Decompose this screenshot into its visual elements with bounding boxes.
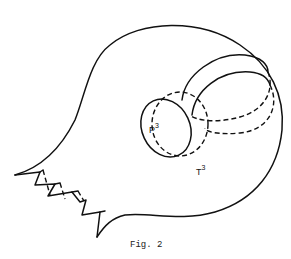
label-p3: P3 [149,123,159,135]
label-t-sup: 3 [202,164,206,171]
torus-outer-solid [182,55,268,100]
figure-diagram [0,0,291,259]
label-t3: T3 [196,165,205,177]
label-p-sup: 3 [155,122,159,129]
torus-outer-dashed [190,72,270,121]
torus-inner-dashed [205,85,274,134]
torn-edge [15,172,100,237]
figure-caption: Fig. 2 [130,240,162,250]
p-ellipse-dashed [152,92,208,156]
torn-edge-inner [40,170,105,212]
label-t-base: T [196,167,202,177]
